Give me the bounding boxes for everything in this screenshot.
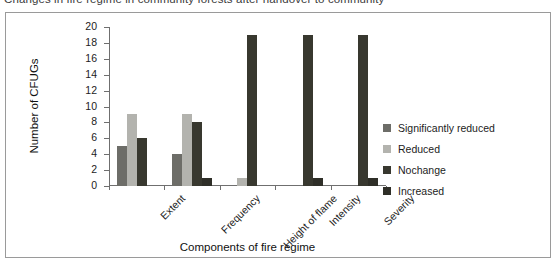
x-axis-category-label: Extent bbox=[158, 192, 188, 222]
y-axis-tick-label: 4 bbox=[91, 147, 97, 159]
legend-swatch bbox=[383, 124, 391, 132]
bar-group bbox=[164, 27, 219, 186]
x-axis-tick bbox=[275, 186, 276, 190]
bar bbox=[303, 35, 313, 186]
bar bbox=[117, 146, 127, 186]
legend-item: Nochange bbox=[383, 159, 495, 180]
bar-group bbox=[331, 27, 386, 186]
legend-label: Reduced bbox=[398, 143, 440, 155]
bar bbox=[137, 138, 147, 186]
chart-legend: Significantly reducedReducedNochangeIncr… bbox=[383, 117, 495, 201]
bar bbox=[127, 114, 137, 186]
x-axis-tick bbox=[164, 186, 165, 190]
y-axis-tick-label: 10 bbox=[85, 100, 97, 112]
y-axis-tick-label: 2 bbox=[91, 163, 97, 175]
legend-swatch bbox=[383, 166, 391, 174]
bar bbox=[368, 178, 378, 186]
bar-group bbox=[109, 27, 164, 186]
x-axis-category-label: Frequency bbox=[219, 192, 263, 236]
legend-item: Increased bbox=[383, 180, 495, 201]
y-axis-tick-label: 20 bbox=[85, 20, 97, 32]
legend-swatch bbox=[383, 145, 391, 153]
legend-item: Significantly reduced bbox=[383, 117, 495, 138]
figure-caption: Changes in fire regime in community fore… bbox=[4, 0, 554, 9]
bar bbox=[182, 114, 192, 186]
plot-area: 02468101214161820 bbox=[109, 27, 386, 186]
bar bbox=[313, 178, 323, 186]
y-axis-tick-label: 0 bbox=[91, 179, 97, 191]
y-axis-tick-label: 18 bbox=[85, 36, 97, 48]
legend-swatch bbox=[383, 187, 391, 195]
bar bbox=[358, 35, 368, 186]
legend-label: Nochange bbox=[398, 164, 446, 176]
y-axis-tick-label: 8 bbox=[91, 115, 97, 127]
x-axis-tick bbox=[109, 186, 110, 190]
legend-label: Significantly reduced bbox=[398, 122, 495, 134]
bar bbox=[172, 154, 182, 186]
bar-group bbox=[220, 27, 275, 186]
bar bbox=[192, 122, 202, 186]
y-axis-tick-label: 14 bbox=[85, 68, 97, 80]
x-axis-tick bbox=[220, 186, 221, 190]
y-axis-tick-label: 6 bbox=[91, 131, 97, 143]
chart-figure-frame: Number of CFUGs 02468101214161820 Extent… bbox=[5, 12, 551, 258]
bar bbox=[247, 35, 257, 186]
legend-label: Increased bbox=[398, 185, 444, 197]
legend-item: Reduced bbox=[383, 138, 495, 159]
y-axis-tick-label: 16 bbox=[85, 52, 97, 64]
y-axis-title: Number of CFUGs bbox=[28, 41, 40, 171]
x-axis-tick bbox=[331, 186, 332, 190]
bar bbox=[202, 178, 212, 186]
y-axis-tick-label: 12 bbox=[85, 84, 97, 96]
bar-group bbox=[275, 27, 330, 186]
x-axis-title: Components of fire regime bbox=[109, 241, 386, 253]
bar bbox=[237, 178, 247, 186]
